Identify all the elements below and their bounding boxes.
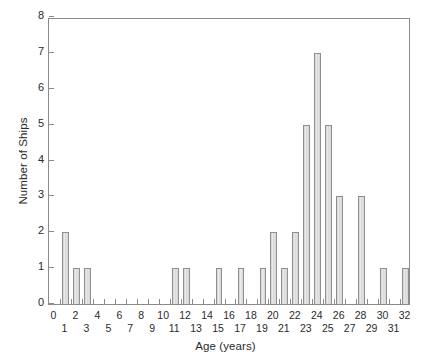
x-tick-label: 27 xyxy=(344,322,356,334)
histogram-bar xyxy=(238,268,245,304)
histogram-bar xyxy=(336,196,343,304)
x-tick-label: 25 xyxy=(322,322,334,334)
histogram-bar xyxy=(216,268,223,304)
x-tick-mark xyxy=(60,299,61,304)
histogram-bar xyxy=(84,268,91,304)
x-tick-mark xyxy=(378,299,379,304)
y-tick: 5 xyxy=(49,124,54,125)
x-tick-label: 0 xyxy=(51,309,57,321)
y-tick-mark xyxy=(49,124,54,125)
y-tick-label: 0 xyxy=(38,296,44,308)
x-tick-label: 12 xyxy=(179,309,191,321)
x-tick-label: 17 xyxy=(234,322,246,334)
x-tick-mark xyxy=(137,299,138,304)
y-tick-mark xyxy=(49,267,54,268)
x-tick-mark xyxy=(290,299,291,304)
x-tick-mark xyxy=(323,299,324,304)
x-tick-mark xyxy=(225,299,226,304)
histogram-bar xyxy=(325,125,332,304)
y-tick-mark xyxy=(49,88,54,89)
x-tick-mark xyxy=(356,299,357,304)
x-tick-mark xyxy=(148,299,149,304)
x-tick-label: 3 xyxy=(83,322,89,334)
y-tick-mark xyxy=(49,195,54,196)
x-tick-label: 24 xyxy=(311,309,323,321)
histogram-bar xyxy=(402,268,409,304)
x-tick-mark xyxy=(170,299,171,304)
x-tick-label: 23 xyxy=(300,322,312,334)
histogram-bar xyxy=(314,53,321,304)
plot-area: 012345678 xyxy=(48,18,410,305)
x-tick-label: 18 xyxy=(245,309,257,321)
x-tick-label: 1 xyxy=(62,322,68,334)
x-tick-label: 11 xyxy=(169,322,180,334)
x-tick-label: 16 xyxy=(223,309,235,321)
x-tick-mark xyxy=(82,299,83,304)
y-tick-label: 7 xyxy=(38,45,44,57)
histogram-bar xyxy=(380,268,387,304)
x-tick-label: 15 xyxy=(212,322,224,334)
histogram-chart: Number of Ships 012345678 01234567891011… xyxy=(0,0,441,364)
x-tick-label: 30 xyxy=(377,309,389,321)
y-tick-label: 2 xyxy=(38,224,44,236)
y-tick: 4 xyxy=(49,160,54,161)
x-tick-label: 19 xyxy=(256,322,268,334)
x-tick-label: 21 xyxy=(278,322,290,334)
x-tick-mark xyxy=(93,299,94,304)
x-tick-mark xyxy=(312,299,313,304)
histogram-bar xyxy=(292,232,299,304)
x-tick-label: 5 xyxy=(105,322,111,334)
x-tick-label: 13 xyxy=(190,322,202,334)
x-tick-mark xyxy=(257,299,258,304)
x-tick-mark xyxy=(192,299,193,304)
x-tick-mark xyxy=(279,299,280,304)
x-tick-mark xyxy=(400,299,401,304)
y-tick: 7 xyxy=(49,52,54,53)
y-tick-label: 6 xyxy=(38,81,44,93)
y-tick: 3 xyxy=(49,195,54,196)
x-tick-label: 31 xyxy=(388,322,400,334)
x-tick-mark xyxy=(71,299,72,304)
x-tick-label: 6 xyxy=(116,309,122,321)
y-tick-mark xyxy=(49,160,54,161)
y-tick-label: 1 xyxy=(38,260,44,272)
plot-inner: 012345678 xyxy=(49,19,409,304)
y-tick: 8 xyxy=(49,16,54,17)
x-axis-title: Age (years) xyxy=(38,340,413,352)
y-tick: 2 xyxy=(49,231,54,232)
x-tick-label: 4 xyxy=(94,309,100,321)
y-tick: 6 xyxy=(49,88,54,89)
y-tick-mark xyxy=(49,231,54,232)
x-tick-label: 9 xyxy=(149,322,155,334)
x-tick-mark xyxy=(246,299,247,304)
y-tick-label: 4 xyxy=(38,153,44,165)
x-tick-mark xyxy=(301,299,302,304)
x-tick-label: 2 xyxy=(73,309,79,321)
y-axis-title: Number of Ships xyxy=(17,76,29,246)
histogram-bar xyxy=(73,268,80,304)
histogram-bar xyxy=(358,196,365,304)
histogram-bar xyxy=(172,268,179,304)
histogram-bar xyxy=(303,125,310,304)
x-tick-label: 20 xyxy=(267,309,279,321)
x-tick-mark xyxy=(334,299,335,304)
y-tick-mark xyxy=(49,16,54,17)
x-tick-label: 26 xyxy=(333,309,345,321)
y-tick-mark xyxy=(49,52,54,53)
histogram-bar xyxy=(260,268,267,304)
x-tick-label: 8 xyxy=(138,309,144,321)
x-tick-mark xyxy=(104,299,105,304)
x-tick-mark xyxy=(203,299,204,304)
x-tick-mark xyxy=(159,299,160,304)
x-tick-label: 32 xyxy=(399,309,411,321)
x-tick-mark xyxy=(367,299,368,304)
histogram-bar xyxy=(270,232,277,304)
y-tick-label: 5 xyxy=(38,117,44,129)
histogram-bar xyxy=(62,232,69,304)
x-tick-mark xyxy=(389,299,390,304)
y-tick: 0 xyxy=(49,303,54,304)
x-tick-mark xyxy=(115,299,116,304)
y-tick-mark xyxy=(49,303,54,304)
x-tick-label: 14 xyxy=(201,309,213,321)
x-tick-mark xyxy=(126,299,127,304)
